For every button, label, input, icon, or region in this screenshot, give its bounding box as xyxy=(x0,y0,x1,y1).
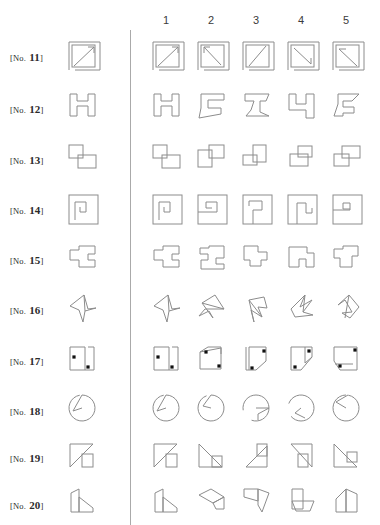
option-figure-no-12-choice-4[interactable] xyxy=(285,90,325,130)
option-figure-no-12-choice-5[interactable] xyxy=(330,90,370,130)
option-figure-no-18-choice-4[interactable] xyxy=(285,392,325,432)
option-figure-no-15-choice-5[interactable] xyxy=(330,242,370,282)
question-figure-no-15 xyxy=(66,242,106,282)
option-figure-no-13-choice-3[interactable] xyxy=(240,142,280,182)
option-figure-no-14-choice-4[interactable] xyxy=(285,192,325,232)
row-label-suffix: ] xyxy=(41,206,44,216)
row-label-prefix: [No. xyxy=(10,53,26,63)
option-figure-no-17-choice-3[interactable] xyxy=(240,343,280,383)
option-figure-no-11-choice-2[interactable] xyxy=(195,38,235,78)
question-figure-no-11 xyxy=(66,38,106,78)
option-figure-no-12-choice-1[interactable] xyxy=(150,90,190,130)
option-figure-no-18-choice-1[interactable] xyxy=(150,392,190,432)
option-figure-no-19-choice-2[interactable] xyxy=(195,440,235,480)
question-figure-no-14 xyxy=(66,192,106,232)
column-header-5: 5 xyxy=(334,14,358,26)
option-figure-no-14-choice-2[interactable] xyxy=(195,192,235,232)
row-label-no-20: [No.20] xyxy=(10,499,44,511)
column-header-4: 4 xyxy=(289,14,313,26)
option-figure-no-20-choice-5[interactable] xyxy=(330,485,370,525)
question-figure-no-17 xyxy=(66,343,106,383)
option-figure-no-17-choice-5[interactable] xyxy=(330,343,370,383)
option-figure-no-13-choice-4[interactable] xyxy=(285,142,325,182)
row-label-no-19: [No.19] xyxy=(10,452,44,464)
row-label-suffix: ] xyxy=(40,53,43,63)
option-figure-no-15-choice-2[interactable] xyxy=(195,242,235,282)
option-figure-no-19-choice-5[interactable] xyxy=(330,440,370,480)
option-figure-no-16-choice-3[interactable] xyxy=(240,291,280,331)
option-figure-no-14-choice-1[interactable] xyxy=(150,192,190,232)
row-label-prefix: [No. xyxy=(10,501,26,511)
row-label-number: 13 xyxy=(29,154,40,166)
row-label-number: 18 xyxy=(29,405,40,417)
row-label-number: 11 xyxy=(29,51,40,63)
column-divider xyxy=(130,30,131,525)
option-figure-no-18-choice-3[interactable] xyxy=(240,392,280,432)
row-label-no-11: [No.11] xyxy=(10,51,43,63)
option-figure-no-11-choice-1[interactable] xyxy=(150,38,190,78)
option-figure-no-20-choice-1[interactable] xyxy=(150,485,190,525)
row-label-number: 15 xyxy=(29,254,40,266)
row-label-prefix: [No. xyxy=(10,306,26,316)
option-figure-no-14-choice-5[interactable] xyxy=(330,192,370,232)
row-label-prefix: [No. xyxy=(10,206,26,216)
question-figure-no-12 xyxy=(66,90,106,130)
option-figure-no-17-choice-4[interactable] xyxy=(285,343,325,383)
row-label-suffix: ] xyxy=(41,156,44,166)
option-figure-no-17-choice-2[interactable] xyxy=(195,343,235,383)
column-header-3: 3 xyxy=(244,14,268,26)
row-label-prefix: [No. xyxy=(10,357,26,367)
question-figure-no-13 xyxy=(66,142,106,182)
option-figure-no-16-choice-5[interactable] xyxy=(330,291,370,331)
row-label-prefix: [No. xyxy=(10,156,26,166)
option-figure-no-17-choice-1[interactable] xyxy=(150,343,190,383)
option-figure-no-20-choice-4[interactable] xyxy=(285,485,325,525)
row-label-suffix: ] xyxy=(41,105,44,115)
option-figure-no-11-choice-4[interactable] xyxy=(285,38,325,78)
option-figure-no-13-choice-5[interactable] xyxy=(330,142,370,182)
option-figure-no-11-choice-5[interactable] xyxy=(330,38,370,78)
row-label-no-15: [No.15] xyxy=(10,254,44,266)
option-figure-no-12-choice-3[interactable] xyxy=(240,90,280,130)
option-figure-no-15-choice-1[interactable] xyxy=(150,242,190,282)
option-figure-no-19-choice-3[interactable] xyxy=(240,440,280,480)
row-label-no-17: [No.17] xyxy=(10,355,44,367)
column-header-1: 1 xyxy=(154,14,178,26)
option-figure-no-16-choice-2[interactable] xyxy=(195,291,235,331)
option-figure-no-12-choice-2[interactable] xyxy=(195,90,235,130)
row-label-number: 17 xyxy=(29,355,40,367)
option-figure-no-13-choice-2[interactable] xyxy=(195,142,235,182)
row-label-no-18: [No.18] xyxy=(10,405,44,417)
row-label-prefix: [No. xyxy=(10,454,26,464)
option-figure-no-20-choice-3[interactable] xyxy=(240,485,280,525)
test-sheet: 12345[No.11][No.12][No.13][No.14][No.15]… xyxy=(0,0,380,525)
option-figure-no-16-choice-4[interactable] xyxy=(285,291,325,331)
row-label-prefix: [No. xyxy=(10,256,26,266)
row-label-suffix: ] xyxy=(41,407,44,417)
option-figure-no-15-choice-3[interactable] xyxy=(240,242,280,282)
row-label-number: 12 xyxy=(29,103,40,115)
option-figure-no-18-choice-5[interactable] xyxy=(330,392,370,432)
row-label-no-16: [No.16] xyxy=(10,304,44,316)
option-figure-no-18-choice-2[interactable] xyxy=(195,392,235,432)
option-figure-no-19-choice-1[interactable] xyxy=(150,440,190,480)
row-label-suffix: ] xyxy=(41,357,44,367)
row-label-no-13: [No.13] xyxy=(10,154,44,166)
option-figure-no-19-choice-4[interactable] xyxy=(285,440,325,480)
row-label-number: 14 xyxy=(29,204,40,216)
row-label-suffix: ] xyxy=(41,501,44,511)
option-figure-no-16-choice-1[interactable] xyxy=(150,291,190,331)
option-figure-no-20-choice-2[interactable] xyxy=(195,485,235,525)
row-label-suffix: ] xyxy=(41,306,44,316)
row-label-prefix: [No. xyxy=(10,105,26,115)
row-label-suffix: ] xyxy=(41,454,44,464)
row-label-no-12: [No.12] xyxy=(10,103,44,115)
option-figure-no-11-choice-3[interactable] xyxy=(240,38,280,78)
question-figure-no-20 xyxy=(66,485,106,525)
column-header-2: 2 xyxy=(199,14,223,26)
option-figure-no-13-choice-1[interactable] xyxy=(150,142,190,182)
question-figure-no-19 xyxy=(66,440,106,480)
option-figure-no-15-choice-4[interactable] xyxy=(285,242,325,282)
option-figure-no-14-choice-3[interactable] xyxy=(240,192,280,232)
question-figure-no-16 xyxy=(66,291,106,331)
